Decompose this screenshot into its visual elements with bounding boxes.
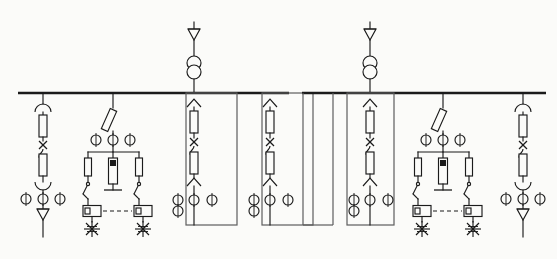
lower-isolator-icon[interactable] bbox=[190, 152, 198, 174]
current-transformer-icon bbox=[265, 193, 275, 207]
single-line-diagram-canvas bbox=[0, 0, 557, 259]
transformer-icon bbox=[187, 56, 201, 79]
current-transformer-icon bbox=[38, 192, 48, 206]
bay-L3-feeder-cubicle[interactable] bbox=[173, 93, 237, 225]
truck-arc-bottom-icon bbox=[35, 182, 51, 190]
current-transformer-icon bbox=[383, 193, 393, 207]
truck-chevron-icon bbox=[263, 99, 277, 107]
section-right bbox=[302, 22, 546, 237]
truck-chevron-icon bbox=[363, 99, 377, 107]
isolator-icon[interactable] bbox=[266, 111, 274, 133]
vt-coil-icon bbox=[83, 206, 101, 217]
current-transformer-icon bbox=[283, 193, 293, 207]
fuse-icon bbox=[466, 158, 473, 176]
current-transformer-icon bbox=[91, 133, 101, 147]
vt-coil-icon bbox=[464, 206, 482, 217]
bay-L2-vt-metering[interactable] bbox=[83, 93, 152, 237]
truck-arc-bottom-icon bbox=[515, 182, 531, 190]
indicator-lamp-icon bbox=[465, 221, 481, 237]
current-transformer-icon bbox=[55, 192, 65, 206]
indicator-lamp-icon bbox=[135, 221, 151, 237]
isolator-icon[interactable] bbox=[519, 115, 527, 137]
bay-R3-feeder-cubicle[interactable] bbox=[347, 93, 394, 225]
surge-arrester-icon bbox=[37, 209, 49, 220]
current-transformer-icon bbox=[501, 192, 511, 206]
truck-chevron-icon bbox=[187, 178, 201, 186]
disconnector-switch-icon[interactable] bbox=[83, 182, 90, 194]
indicator-lamp-icon bbox=[414, 221, 430, 237]
current-transformer-icon bbox=[189, 193, 199, 207]
sld-svg bbox=[0, 0, 557, 259]
current-transformer-icon bbox=[125, 133, 135, 147]
current-transformer-icon bbox=[207, 193, 217, 207]
current-transformer-icon bbox=[349, 204, 359, 218]
truck-chevron-icon bbox=[263, 178, 277, 186]
lower-isolator-icon[interactable] bbox=[366, 152, 374, 174]
incomer-left[interactable] bbox=[187, 22, 201, 93]
current-transformer-icon bbox=[535, 192, 545, 206]
lower-isolator-icon[interactable] bbox=[519, 154, 527, 176]
fuse-icon bbox=[85, 158, 92, 176]
current-transformer-icon bbox=[518, 192, 528, 206]
vt-coil-icon bbox=[134, 206, 152, 217]
current-transformer-icon bbox=[365, 193, 375, 207]
bay-R2-feeder-cubicle[interactable] bbox=[303, 93, 333, 225]
current-transformer-icon bbox=[421, 133, 431, 147]
current-transformer-icon bbox=[21, 192, 31, 206]
fuse-icon bbox=[136, 158, 143, 176]
current-transformer-icon bbox=[108, 133, 118, 147]
isolator-icon[interactable] bbox=[190, 111, 198, 133]
surge-arrester-icon bbox=[517, 209, 529, 220]
surge-arrester-icon bbox=[364, 29, 376, 40]
current-transformer-icon bbox=[438, 133, 448, 147]
truck-chevron-icon bbox=[363, 178, 377, 186]
truck-arc-top-icon bbox=[515, 104, 531, 112]
transformer-icon bbox=[363, 56, 377, 79]
disconnector-switch-icon[interactable] bbox=[464, 182, 471, 194]
bay-R5[interactable] bbox=[501, 93, 545, 237]
section-left bbox=[18, 22, 313, 237]
isolator-icon[interactable] bbox=[39, 115, 47, 137]
truck-chevron-icon bbox=[187, 99, 201, 107]
bay-L1[interactable] bbox=[21, 93, 65, 237]
isolator-icon[interactable] bbox=[366, 111, 374, 133]
current-transformer-icon bbox=[249, 204, 259, 218]
fuse-icon bbox=[415, 158, 422, 176]
lower-isolator-icon[interactable] bbox=[39, 154, 47, 176]
lower-isolator-icon[interactable] bbox=[266, 152, 274, 174]
truck-arc-top-icon bbox=[35, 104, 51, 112]
bay-R4-vt-metering[interactable] bbox=[413, 93, 482, 237]
vt-coil-icon bbox=[413, 206, 431, 217]
current-transformer-icon bbox=[173, 204, 183, 218]
incomer-right[interactable] bbox=[363, 22, 377, 93]
current-transformer-icon bbox=[455, 133, 465, 147]
voltage-transformer-icon bbox=[109, 158, 118, 184]
tilted-disconnector-icon[interactable] bbox=[101, 109, 116, 132]
disconnector-switch-icon[interactable] bbox=[134, 182, 141, 194]
voltage-transformer-icon bbox=[439, 158, 448, 184]
surge-arrester-icon bbox=[188, 29, 200, 40]
tilted-disconnector-icon[interactable] bbox=[431, 109, 446, 132]
indicator-lamp-icon bbox=[84, 221, 100, 237]
disconnector-switch-icon[interactable] bbox=[413, 182, 420, 194]
